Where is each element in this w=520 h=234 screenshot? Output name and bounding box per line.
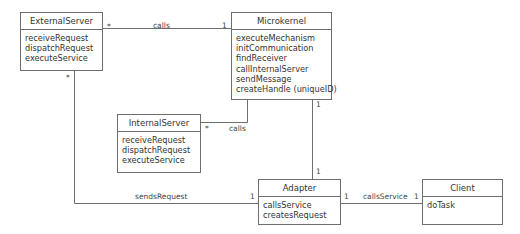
operations-list: receiveRequest dispatchRequest executeSe…: [21, 30, 102, 64]
multiplicity: 1: [316, 167, 321, 176]
operation: receiveRequest: [122, 135, 196, 145]
operation: dispatchRequest: [25, 43, 98, 53]
assoc-internal-microkernel: [200, 99, 248, 123]
operations-list: callsService createsRequest: [259, 197, 340, 220]
class-name: InternalServer: [118, 115, 200, 132]
multiplicity: 1: [316, 100, 321, 109]
multiplicity: 1: [414, 192, 419, 201]
class-client: Client doTask: [422, 179, 503, 225]
operation: createHandle (uniqueID): [236, 84, 327, 94]
class-internal-server: InternalServer receiveRequest dispatchRe…: [117, 114, 201, 173]
association-label: calls: [229, 124, 246, 133]
class-external-server: ExternalServer receiveRequest dispatchRe…: [20, 12, 103, 71]
class-name: Client: [423, 180, 502, 197]
operations-list: receiveRequest dispatchRequest executeSe…: [118, 132, 200, 166]
operation: createsRequest: [263, 210, 336, 220]
multiplicity: 1: [222, 21, 227, 30]
operation: dispatchRequest: [122, 145, 196, 155]
multiplicity: *: [107, 22, 111, 31]
class-adapter: Adapter callsService createsRequest: [258, 179, 341, 225]
operation: findReceiver: [236, 53, 327, 63]
operation: executeService: [122, 155, 196, 165]
association-label: sendsRequest: [135, 192, 187, 201]
multiplicity: *: [66, 73, 70, 82]
class-name: Microkernel: [232, 13, 331, 30]
operation: executeMechanism: [236, 33, 327, 43]
operation: callsService: [263, 200, 336, 210]
multiplicity: 1: [250, 192, 255, 201]
operation: sendMessage: [236, 74, 327, 84]
association-label: callsService: [363, 192, 408, 201]
association-label: calls: [153, 21, 170, 30]
operation: callInternalServer: [236, 64, 327, 74]
multiplicity: *: [205, 124, 209, 133]
operation: receiveRequest: [25, 33, 98, 43]
operation: initCommunication: [236, 43, 327, 53]
class-microkernel: Microkernel executeMechanism initCommuni…: [231, 12, 332, 100]
operation: executeService: [25, 53, 98, 63]
multiplicity: 1: [344, 192, 349, 201]
class-name: ExternalServer: [21, 13, 102, 30]
operations-list: executeMechanism initCommunication findR…: [232, 30, 331, 94]
operation: doTask: [427, 200, 498, 210]
class-name: Adapter: [259, 180, 340, 197]
operations-list: doTask: [423, 197, 502, 210]
